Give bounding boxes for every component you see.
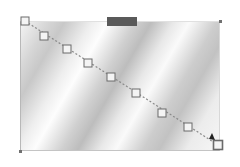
gradient-stop-handle[interactable] [132, 89, 140, 97]
gradient-end-handle[interactable] [214, 141, 223, 150]
gradient-stop-handle[interactable] [107, 73, 115, 81]
gradient-stop-handle[interactable] [63, 45, 71, 53]
gradient-stop-handle[interactable] [184, 123, 192, 131]
gradient-stop-handle[interactable] [84, 59, 92, 67]
end-arrow-icon [209, 133, 215, 140]
gradient-start-handle[interactable] [21, 17, 29, 25]
gradient-stop-handle[interactable] [40, 32, 48, 40]
gradient-stop-handle[interactable] [158, 109, 166, 117]
gradient-direction-overlay [0, 0, 240, 167]
